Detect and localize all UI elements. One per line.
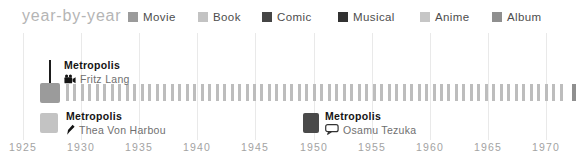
year-tick [81, 84, 84, 101]
gridline-1940 [197, 33, 198, 140]
year-tick [118, 84, 121, 101]
year-tick [246, 84, 249, 101]
year-tick [477, 84, 480, 101]
year-tick [560, 84, 563, 101]
year-tick [231, 84, 234, 101]
legend-item-label: Anime [435, 11, 470, 23]
year-tick [88, 84, 91, 101]
year-tick [365, 84, 368, 101]
legend-swatch [262, 12, 272, 22]
legend-item-anime[interactable]: Anime [420, 10, 470, 23]
year-tick [208, 84, 211, 101]
year-tick [268, 84, 271, 101]
year-tick [111, 84, 114, 101]
event-marker-metropolis-book[interactable] [40, 113, 58, 133]
year-tick [201, 84, 204, 101]
year-tick [470, 84, 473, 101]
year-tick [171, 84, 174, 101]
year-tick [163, 84, 166, 101]
year-tick [141, 84, 144, 101]
year-tick [305, 84, 308, 101]
gridline-1960 [430, 33, 431, 140]
year-tick [126, 84, 129, 101]
year-tick [418, 84, 421, 101]
event-label-metropolis-movie[interactable]: Metropolis Fritz Lang [64, 59, 130, 85]
speech-bubble-icon [325, 124, 339, 136]
year-tick [343, 84, 346, 101]
event-marker-metropolis-movie[interactable] [40, 83, 60, 103]
legend-item-movie[interactable]: Movie [128, 10, 176, 23]
year-tick [530, 84, 533, 101]
year-tick [403, 84, 406, 101]
year-tick [253, 84, 256, 101]
pen-icon [66, 124, 75, 136]
year-tick [388, 84, 391, 101]
axis-year-label: 1925 [0, 141, 48, 153]
year-tick [395, 84, 398, 101]
legend-swatch [492, 12, 502, 22]
axis-year-label: 1940 [172, 141, 222, 153]
legend-item-label: Book [213, 11, 241, 23]
year-tick [552, 84, 555, 101]
year-tick [425, 84, 428, 101]
year-tick [440, 84, 443, 101]
legend-item-label: Musical [353, 11, 395, 23]
year-tick [73, 84, 76, 101]
year-tick [462, 84, 465, 101]
year-tick [350, 84, 353, 101]
axis-year-label: 1930 [56, 141, 106, 153]
year-tick [455, 84, 458, 101]
year-tick [433, 84, 436, 101]
year-tick [380, 84, 383, 101]
chart-title: year-by-year [22, 7, 121, 25]
legend-swatch [338, 12, 348, 22]
movie-camera-icon [64, 73, 76, 85]
year-tick [313, 84, 316, 101]
year-tick [298, 84, 301, 101]
legend-item-label: Movie [143, 11, 176, 23]
year-tick [66, 84, 69, 101]
year-by-year-timeline: year-by-year MovieBookComicMusicalAnimeA… [0, 0, 578, 166]
year-tick [96, 84, 99, 101]
axis-year-label: 1955 [347, 141, 397, 153]
year-tick [522, 84, 525, 101]
year-tick [223, 84, 226, 101]
year-tick [148, 84, 151, 101]
legend-item-label: Comic [277, 11, 312, 23]
event-label-metropolis-comic[interactable]: Metropolis Osamu Tezuka [325, 110, 416, 136]
legend-item-musical[interactable]: Musical [338, 10, 395, 23]
year-tick [103, 84, 106, 101]
event-title: Metropolis [64, 59, 130, 72]
axis-year-label: 1945 [230, 141, 280, 153]
year-tick [410, 84, 413, 101]
year-tick [283, 84, 286, 101]
legend-swatch [420, 12, 430, 22]
year-tick [335, 84, 338, 101]
legend-item-book[interactable]: Book [198, 10, 241, 23]
year-tick [133, 84, 136, 101]
event-label-metropolis-book[interactable]: Metropolis Thea Von Harbou [66, 110, 166, 136]
event-connector-line [49, 60, 51, 84]
year-tick [485, 84, 488, 101]
legend-swatch [198, 12, 208, 22]
year-tick [545, 84, 548, 101]
year-tick [492, 84, 495, 101]
event-person: Fritz Lang [80, 73, 130, 85]
year-tick [328, 84, 331, 101]
legend-item-album[interactable]: Album [492, 10, 542, 23]
year-tick [186, 84, 189, 101]
year-tick [373, 84, 376, 101]
legend-swatch [128, 12, 138, 22]
legend-item-comic[interactable]: Comic [262, 10, 312, 23]
year-tick [500, 84, 503, 101]
year-tick [238, 84, 241, 101]
year-tick [447, 84, 450, 101]
year-tick [193, 84, 196, 101]
event-title: Metropolis [325, 110, 416, 123]
axis-year-label: 1970 [521, 141, 571, 153]
gridline-1965 [488, 33, 489, 140]
event-marker-metropolis-comic[interactable] [303, 113, 319, 133]
year-tick [515, 84, 518, 101]
year-tick [260, 84, 263, 101]
year-tick [216, 84, 219, 101]
